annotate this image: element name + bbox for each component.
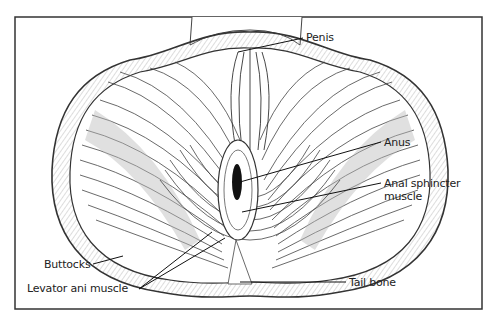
label-penis: Penis — [306, 31, 334, 44]
label-tail-bone: Tail bone — [349, 276, 396, 289]
pelvic-floor-diagram: Penis Anus Anal sphincter muscle Buttock… — [0, 0, 498, 320]
label-anal-sphincter-muscle: Anal sphincter muscle — [384, 177, 460, 203]
label-buttocks: Buttocks — [44, 258, 90, 271]
anatomy-illustration — [0, 0, 498, 320]
label-levator-ani-muscle: Levator ani muscle — [27, 282, 128, 295]
label-anus: Anus — [384, 136, 410, 149]
